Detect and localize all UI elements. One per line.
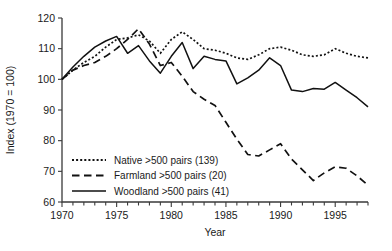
x-tick-label: 1990 (269, 209, 293, 221)
legend-label-1: Farmland >500 pairs (20) (114, 170, 227, 181)
y-tick-label: 70 (43, 165, 55, 177)
y-tick-label: 100 (37, 73, 55, 85)
y-axis-title: Index (1970 = 100) (4, 66, 16, 154)
x-tick-label: 1975 (105, 209, 129, 221)
y-tick-label: 90 (43, 104, 55, 116)
y-tick-label: 120 (37, 12, 55, 24)
series-line-2 (62, 36, 368, 107)
x-axis-tick-labels: 197019751980198519901995 (50, 209, 347, 221)
legend-label-0: Native >500 pairs (139) (114, 155, 218, 166)
y-axis-tick-labels: 60708090100110120 (37, 12, 55, 208)
x-tick-label: 1970 (50, 209, 74, 221)
x-tick-label: 1985 (214, 209, 238, 221)
x-tick-label: 1995 (324, 209, 348, 221)
y-tick-label: 60 (43, 196, 55, 208)
chart-container: 60708090100110120 1970197519801985199019… (0, 0, 392, 251)
x-tick-label: 1980 (160, 209, 184, 221)
legend-label-2: Woodland >500 pairs (41) (114, 186, 229, 197)
y-tick-label: 80 (43, 134, 55, 146)
x-axis-title: Year (204, 226, 226, 238)
chart-legend: Native >500 pairs (139)Farmland >500 pai… (72, 155, 229, 197)
y-tick-label: 110 (38, 42, 55, 54)
line-chart: 60708090100110120 1970197519801985199019… (0, 0, 392, 251)
